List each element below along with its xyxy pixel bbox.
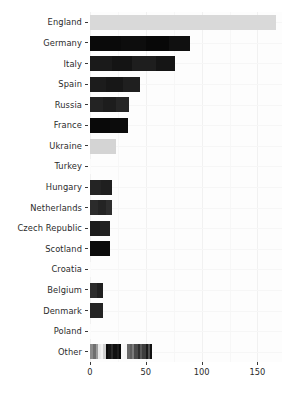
bar-row xyxy=(90,197,282,218)
y-tick-label: England xyxy=(48,17,83,27)
y-tick-ukraine: Ukraine xyxy=(0,136,90,157)
y-tick-england: England xyxy=(0,12,90,33)
x-tick-mark xyxy=(202,362,203,365)
bar-spain[interactable] xyxy=(90,77,140,92)
x-tick-mark xyxy=(146,362,147,365)
bar-segment xyxy=(90,262,91,277)
y-tick-label: France xyxy=(54,120,83,130)
x-tick-label: 150 xyxy=(250,367,266,377)
y-tick-mark xyxy=(85,207,88,208)
bar-france[interactable] xyxy=(90,118,128,133)
y-tick-label: Belgium xyxy=(47,285,83,295)
y-tick-netherlands: Netherlands xyxy=(0,197,90,218)
bar-row xyxy=(90,74,282,95)
bar-segment xyxy=(103,97,115,112)
y-tick-spain: Spain xyxy=(0,74,90,95)
bar-germany[interactable] xyxy=(90,36,190,51)
bar-segment xyxy=(110,118,128,133)
y-tick-label: Spain xyxy=(58,79,83,89)
y-tick-mark xyxy=(85,145,88,146)
bar-row xyxy=(90,280,282,301)
y-tick-poland: Poland xyxy=(0,321,90,342)
bar-segment xyxy=(123,77,140,92)
bar-belgium[interactable] xyxy=(90,283,103,298)
bar-segment xyxy=(97,283,104,298)
y-tick-label: Croatia xyxy=(51,264,83,274)
y-tick-label: Russia xyxy=(55,100,83,110)
bar-italy[interactable] xyxy=(90,56,175,71)
bar-segment xyxy=(90,283,97,298)
bar-segment xyxy=(106,200,113,215)
y-tick-label: Hungary xyxy=(46,182,83,192)
bar-segment xyxy=(112,56,132,71)
bar-other[interactable] xyxy=(90,344,153,359)
bar-turkey[interactable] xyxy=(90,159,91,174)
y-tick-france: France xyxy=(0,115,90,136)
y-tick-belgium: Belgium xyxy=(0,280,90,301)
bar-segment xyxy=(90,303,103,318)
bar-czech-republic[interactable] xyxy=(90,221,110,236)
y-axis: EnglandGermanyItalySpainRussiaFranceUkra… xyxy=(0,12,90,362)
bar-row xyxy=(90,94,282,115)
y-tick-mark xyxy=(85,166,88,167)
bar-segment xyxy=(90,36,121,51)
bar-netherlands[interactable] xyxy=(90,200,112,215)
bar-row xyxy=(90,136,282,157)
y-tick-italy: Italy xyxy=(0,53,90,74)
y-tick-mark xyxy=(85,269,88,270)
bar-segment xyxy=(121,36,146,51)
y-tick-label: Scotland xyxy=(45,244,83,254)
bar-row xyxy=(90,115,282,136)
bar-ukraine[interactable] xyxy=(90,139,116,154)
bar-denmark[interactable] xyxy=(90,303,103,318)
bar-segment xyxy=(90,159,91,174)
y-tick-mark xyxy=(85,248,88,249)
plot-panel xyxy=(90,12,282,362)
bar-poland[interactable] xyxy=(90,324,91,339)
y-tick-mark xyxy=(85,289,88,290)
y-tick-label: Germany xyxy=(43,38,83,48)
bar-row xyxy=(90,238,282,259)
x-axis: 050100150 xyxy=(90,362,282,392)
y-tick-label: Other xyxy=(58,347,83,357)
y-tick-label: Denmark xyxy=(43,306,83,316)
y-tick-label: Italy xyxy=(64,59,84,69)
bar-croatia[interactable] xyxy=(90,262,91,277)
x-tick-mark xyxy=(90,362,91,365)
y-tick-mark xyxy=(85,84,88,85)
y-tick-other: Other xyxy=(0,341,90,362)
x-tick-mark xyxy=(257,362,258,365)
bar-segment xyxy=(90,15,276,30)
bar-segment xyxy=(90,324,91,339)
y-tick-hungary: Hungary xyxy=(0,177,90,198)
bar-row xyxy=(90,177,282,198)
bar-segment xyxy=(100,221,110,236)
bar-russia[interactable] xyxy=(90,97,129,112)
bar-hungary[interactable] xyxy=(90,180,112,195)
y-tick-label: Poland xyxy=(54,326,83,336)
bar-segment xyxy=(98,200,106,215)
y-tick-croatia: Croatia xyxy=(0,259,90,280)
bar-row xyxy=(90,321,282,342)
bar-row xyxy=(90,300,282,321)
y-tick-mark xyxy=(85,125,88,126)
y-tick-label: Ukraine xyxy=(49,141,83,151)
bar-row xyxy=(90,33,282,54)
bar-england[interactable] xyxy=(90,15,276,30)
bar-chart: EnglandGermanyItalySpainRussiaFranceUkra… xyxy=(0,0,298,394)
x-tick-label: 50 xyxy=(141,367,152,377)
bar-row xyxy=(90,259,282,280)
x-tick-label: 100 xyxy=(194,367,210,377)
y-tick-mark xyxy=(85,351,88,352)
bar-segment xyxy=(101,180,112,195)
bar-segment xyxy=(90,77,106,92)
bar-segment xyxy=(90,180,101,195)
bar-segment xyxy=(90,139,116,154)
y-tick-scotland: Scotland xyxy=(0,238,90,259)
y-tick-label: Turkey xyxy=(54,161,83,171)
bar-row xyxy=(90,341,282,362)
y-tick-mark xyxy=(85,22,88,23)
bar-segment xyxy=(116,97,129,112)
bar-row xyxy=(90,53,282,74)
bar-scotland[interactable] xyxy=(90,241,110,256)
